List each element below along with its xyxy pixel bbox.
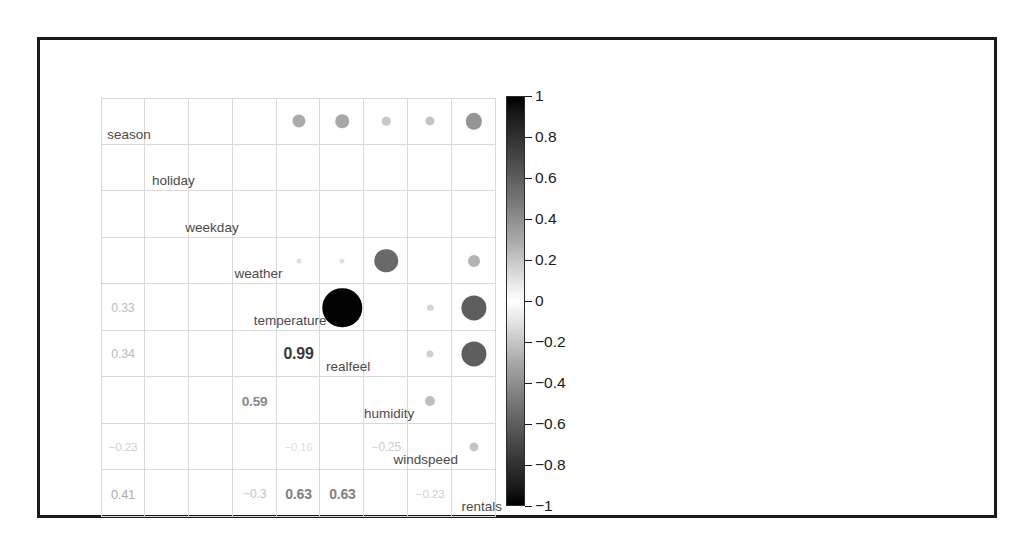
matrix-cell [145,470,189,517]
colorbar-tick-label: −0.2 [535,333,566,351]
correlation-value: 0.63 [329,486,355,502]
colorbar-tick [525,96,532,97]
diagonal-label-temperature: temperature [254,312,327,327]
correlation-value: −0.23 [416,487,445,501]
matrix-cell [452,377,496,424]
diagonal-label-weather: weather [235,266,283,281]
colorbar-tick-label: −0.6 [535,415,566,433]
matrix-cell [145,191,189,238]
colorbar-tick [525,178,532,179]
colorbar-tick [525,424,532,425]
correlation-circle [425,396,435,406]
correlation-value: −0.23 [109,440,138,454]
matrix-cell [452,191,496,238]
matrix-cell [364,191,408,238]
diagonal-label-humidity: humidity [364,405,414,420]
matrix-cell [320,424,364,471]
matrix-cell [233,145,277,192]
colorbar-legend: 10.80.60.40.20−0.2−0.4−0.6−0.8−1 [506,96,566,506]
matrix-cell [189,331,233,378]
matrix-cell [320,145,364,192]
matrix-cell [408,145,452,192]
matrix-cell [189,98,233,145]
correlation-circle [375,249,399,273]
matrix-cell [189,470,233,517]
matrix-cell [408,238,452,285]
matrix-cell [233,331,277,378]
matrix-cell [145,424,189,471]
correlation-value: −0.3 [243,487,266,501]
colorbar-tick-label: 0.2 [535,251,557,269]
matrix-cell [364,145,408,192]
correlation-circle [468,255,480,267]
diagonal-label-weekday: weekday [185,219,238,234]
correlation-circle [340,258,345,263]
correlation-value: −0.16 [285,441,313,453]
colorbar-tick [525,506,532,507]
diagonal-label-season: season [107,126,151,141]
diagonal-label-holiday: holiday [152,173,195,188]
matrix-cell [189,377,233,424]
colorbar-tick [525,260,532,261]
matrix-cell [364,284,408,331]
colorbar-tick-label: 0.8 [535,128,557,146]
matrix-cell [189,145,233,192]
colorbar-tick-label: 0 [535,292,544,310]
matrix-cell [320,377,364,424]
matrix-cell [101,191,145,238]
matrix-cell [145,98,189,145]
diagonal-label-rentals: rentals [461,499,502,514]
matrix-cell [277,377,321,424]
matrix-cell [408,191,452,238]
matrix-cell [320,191,364,238]
correlation-matrix-plot: 0.330.340.590.99−0.23−0.16−0.250.41−0.30… [101,98,496,517]
matrix-cell [101,238,145,285]
colorbar-tick [525,342,532,343]
colorbar-tick [525,383,532,384]
colorbar-tick-label: −0.8 [535,456,566,474]
matrix-cell [101,145,145,192]
colorbar-gradient [506,96,525,506]
correlation-value: 0.41 [111,486,135,501]
matrix-cell [189,424,233,471]
colorbar-tick [525,301,532,302]
correlation-value: 0.63 [285,486,311,502]
matrix-cell [145,238,189,285]
matrix-cell [189,238,233,285]
matrix-cell [101,377,145,424]
colorbar-tick-label: 0.4 [535,210,557,228]
matrix-cell [364,331,408,378]
colorbar-tick [525,219,532,220]
matrix-cell [145,377,189,424]
matrix-cell [145,331,189,378]
matrix-cell [233,191,277,238]
figure-frame: 0.330.340.590.99−0.23−0.16−0.250.41−0.30… [37,37,997,518]
matrix-cell [277,191,321,238]
colorbar-tick-label: 0.6 [535,169,557,187]
correlation-value: 0.59 [242,393,268,408]
colorbar-tick [525,465,532,466]
matrix-cell [277,145,321,192]
matrix-cell [189,284,233,331]
colorbar-tick [525,137,532,138]
correlation-value: 0.99 [283,345,313,363]
correlation-value: 0.33 [111,301,134,315]
correlation-circle [336,114,350,128]
colorbar-tick-label: 1 [535,87,544,105]
correlation-value: 0.34 [111,347,134,361]
matrix-cell [233,98,277,145]
matrix-cell [145,284,189,331]
correlation-circle [296,258,301,263]
diagonal-label-realfeel: realfeel [326,359,370,374]
colorbar-tick-label: −1 [535,497,553,515]
colorbar-tick-label: −0.4 [535,374,566,392]
matrix-cell [233,424,277,471]
matrix-cell [364,470,408,517]
diagonal-label-windspeed: windspeed [394,452,459,467]
matrix-cell [452,145,496,192]
